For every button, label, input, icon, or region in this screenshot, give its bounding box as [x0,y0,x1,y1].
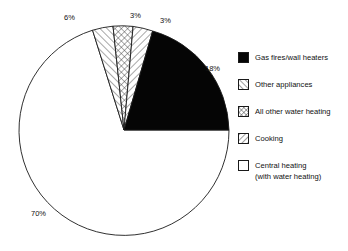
legend-swatch-crosshatch [238,106,249,117]
legend-label-central-heating-line1: Central heating [255,161,307,170]
legend-item-other-appliances[interactable]: Other appliances [238,79,348,91]
legend-label-all-other-water-heating: All other water heating [255,106,331,118]
legend-label-central-heating-line2: (with water heating) [255,172,321,183]
legend-label-other-appliances: Other appliances [255,79,312,91]
legend-label-gas-fires-wall-heaters: Gas fires/wall heaters [255,52,328,64]
pie-label-all-other-water-heating: 3% [130,11,141,20]
legend-swatch-solid-black [238,52,249,63]
legend-label-central-heating: Central heating (with water heating) [255,160,321,182]
legend-item-cooking[interactable]: Cooking [238,133,348,145]
legend-label-cooking: Cooking [255,133,283,145]
pie-label-other-appliances: 6% [64,13,75,22]
legend-swatch-diagonal-down [238,133,249,144]
pie-label-gas-fires-wall-heaters: 18% [205,64,220,73]
pie-label-central-heating: 70% [31,209,46,218]
legend-item-gas-fires-wall-heaters[interactable]: Gas fires/wall heaters [238,52,348,64]
legend-swatch-empty-white [238,160,249,171]
chart-legend: Gas fires/wall heaters Other appliances … [238,52,348,198]
pie-label-cooking: 3% [160,16,171,25]
legend-item-central-heating[interactable]: Central heating (with water heating) [238,160,348,182]
legend-item-all-other-water-heating[interactable]: All other water heating [238,106,348,118]
pie-chart-figure: 6% 3% 3% 18% 70% Gas fires/wall heaters … [0,0,348,251]
legend-swatch-diagonal-up [238,79,249,90]
